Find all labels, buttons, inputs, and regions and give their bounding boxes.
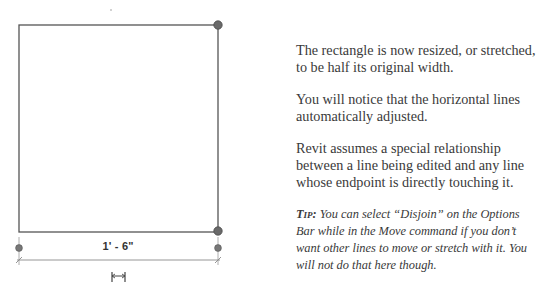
witness-grip-right-icon[interactable] bbox=[215, 245, 222, 252]
instruction-text: The rectangle is now resized, or stretch… bbox=[296, 42, 536, 274]
grip-bottom-right-icon[interactable] bbox=[214, 227, 222, 235]
dimension-flip-icon[interactable] bbox=[112, 272, 125, 282]
paragraph-relationship: Revit assumes a special relationship bet… bbox=[296, 140, 536, 191]
stray-mark bbox=[110, 9, 112, 11]
witness-grip-left-icon[interactable] bbox=[16, 245, 23, 252]
grip-top-right-icon[interactable] bbox=[214, 21, 222, 29]
tip-note: Tip: You can select “Disjoin” on the Opt… bbox=[296, 206, 536, 274]
resized-rectangle[interactable] bbox=[19, 25, 218, 232]
rectangle-diagram: 1' - 6" bbox=[0, 0, 260, 284]
tip-body: You can select “Disjoin” on the Options … bbox=[296, 207, 527, 272]
paragraph-resized: The rectangle is now resized, or stretch… bbox=[296, 42, 536, 76]
paragraph-horizontal-lines: You will notice that the horizontal line… bbox=[296, 91, 536, 125]
dimension-value-label[interactable]: 1' - 6" bbox=[78, 240, 158, 252]
tip-label: Tip: bbox=[296, 207, 317, 221]
